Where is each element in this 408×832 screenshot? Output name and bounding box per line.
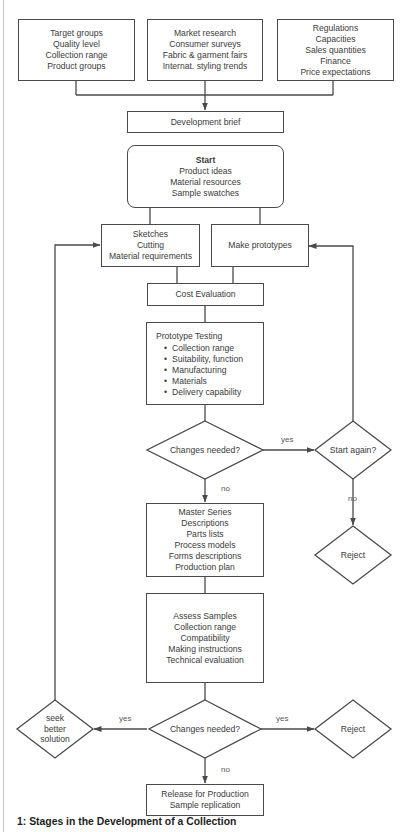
- edge-label-d1-no: no: [221, 484, 230, 493]
- seek-better-line: solution: [40, 734, 70, 745]
- cost-evaluation-label: Cost Evaluation: [175, 289, 235, 300]
- input-line: Target groups: [50, 28, 103, 39]
- list-item: Materials: [164, 376, 243, 387]
- sketches-line: Material requirements: [109, 251, 192, 262]
- input-line: Regulations: [313, 23, 358, 34]
- list-item: Delivery capability: [164, 387, 243, 398]
- decision-changes-needed-2: Changes needed?: [170, 724, 240, 735]
- start-box: Start Product ideas Material resources S…: [127, 145, 284, 208]
- assess-samples-line: Collection range: [174, 622, 236, 633]
- edge-label-d2-no: no: [221, 765, 230, 774]
- master-series-line: Forms descriptions: [169, 551, 242, 562]
- development-brief-box: Development brief: [127, 111, 284, 133]
- master-series-line: Master Series: [178, 507, 231, 518]
- input-line: Price expectations: [300, 67, 370, 78]
- decision-reject-1: Reject: [341, 550, 365, 561]
- start-line: Material resources: [170, 177, 241, 188]
- edge-label-start-again-no: no: [348, 494, 357, 503]
- list-item: Manufacturing: [164, 365, 243, 376]
- decision-start-again: Start again?: [330, 445, 376, 456]
- release-line: Sample replication: [170, 800, 241, 811]
- master-series-line: Production plan: [175, 562, 235, 573]
- edge-label-d1-yes: yes: [281, 435, 293, 444]
- cost-evaluation-box: Cost Evaluation: [147, 283, 264, 306]
- list-item: Collection range: [164, 343, 243, 354]
- make-prototypes-box: Make prototypes: [211, 224, 309, 267]
- input-line: Collection range: [45, 50, 107, 61]
- master-series-line: Descriptions: [181, 518, 228, 529]
- input-line: Consumer surveys: [169, 39, 241, 50]
- master-series-line: Parts lists: [186, 529, 223, 540]
- input-box-market-research: Market research Consumer surveys Fabric …: [147, 19, 263, 81]
- input-line: Capacities: [315, 34, 355, 45]
- assess-samples-line: Assess Samples: [173, 611, 237, 622]
- sketches-line: Cutting: [137, 240, 164, 251]
- input-line: Market research: [174, 28, 236, 39]
- list-item: Suitability, function: [164, 354, 243, 365]
- release-line: Release for Production: [161, 789, 248, 800]
- assess-samples-box: Assess Samples Collection range Compatib…: [146, 593, 264, 683]
- input-line: Finance: [320, 56, 351, 67]
- start-title: Start: [196, 155, 216, 166]
- seek-better-line: seek: [40, 713, 70, 724]
- prototype-testing-box: Prototype Testing Collection range Suita…: [146, 322, 264, 405]
- input-line: Fabric & garment fairs: [163, 50, 248, 61]
- assess-samples-line: Technical evaluation: [166, 655, 243, 666]
- input-line: Internat. styling trends: [163, 61, 248, 72]
- start-line: Product ideas: [179, 166, 232, 177]
- seek-better-line: better: [40, 724, 70, 735]
- input-box-target-groups: Target groups Quality level Collection r…: [18, 19, 135, 81]
- release-for-production-box: Release for Production Sample replicatio…: [146, 784, 264, 816]
- input-box-regulations: Regulations Capacities Sales quantities …: [277, 19, 394, 81]
- master-series-line: Process models: [174, 540, 235, 551]
- prototype-testing-title: Prototype Testing: [156, 331, 222, 342]
- prototype-testing-list: Collection range Suitability, function M…: [156, 343, 243, 398]
- input-line: Product groups: [47, 61, 105, 72]
- flowchart: Target groups Quality level Collection r…: [0, 0, 408, 832]
- assess-samples-line: Compatibility: [180, 633, 229, 644]
- development-brief-label: Development brief: [171, 117, 241, 128]
- master-series-box: Master Series Descriptions Parts lists P…: [146, 503, 264, 577]
- make-prototypes-label: Make prototypes: [228, 240, 292, 251]
- figure-caption: 1: Stages in the Development of a Collec…: [17, 816, 236, 827]
- input-line: Quality level: [53, 39, 100, 50]
- input-line: Sales quantities: [305, 45, 366, 56]
- decision-changes-needed-1: Changes needed?: [170, 445, 240, 456]
- assess-samples-line: Making instructions: [168, 644, 242, 655]
- sketches-box: Sketches Cutting Material requirements: [101, 224, 200, 267]
- edge-label-d2-yes-right: yes: [276, 714, 288, 723]
- edge-label-d2-yes-left: yes: [119, 714, 131, 723]
- start-line: Sample swatches: [172, 188, 239, 199]
- decision-reject-2: Reject: [341, 724, 365, 735]
- decision-seek-better-solution: seek better solution: [40, 713, 70, 745]
- sketches-line: Sketches: [133, 229, 168, 240]
